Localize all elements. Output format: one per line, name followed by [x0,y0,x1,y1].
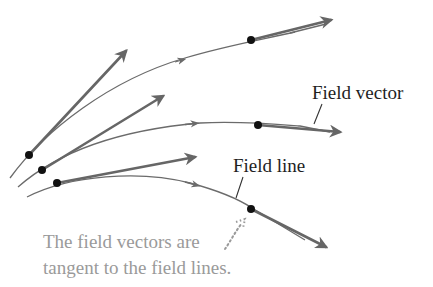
field-diagram: Field vector Field line The field vector… [0,0,433,287]
field-vector-4 [251,20,331,40]
field-vector-leader [314,104,322,124]
field-point-dot [25,151,33,159]
field-vector-6 [251,209,326,247]
field-vector-1 [29,51,126,155]
field-point-dot [53,179,61,187]
field-line-leader [236,177,243,198]
caption-line-2: tangent to the field lines. [43,257,231,278]
field-point-dot [247,36,255,44]
field-point-dot [247,205,255,213]
field-vectors [29,20,340,247]
field-vector-2 [42,96,163,170]
field-vector-label: Field vector [312,82,404,103]
field-point-dot [38,166,46,174]
field-line-label: Field line [233,155,305,176]
caption-line-1: The field vectors are [43,231,200,252]
caption-pointer-arrow [225,223,242,249]
field-point-dot [254,121,262,129]
